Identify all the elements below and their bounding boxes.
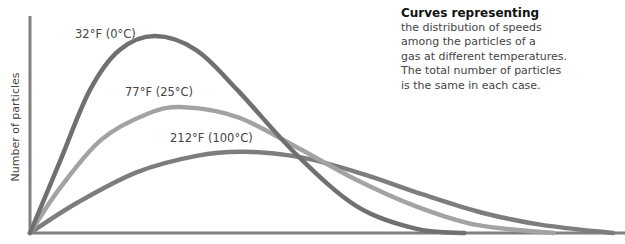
y-axis-label: Number of particles bbox=[9, 92, 22, 182]
caption-line: gas at different temperatures. bbox=[401, 50, 621, 65]
caption-line: the distribution of speeds bbox=[401, 21, 621, 36]
curve-100c bbox=[30, 152, 613, 233]
caption: Curves representing the distribution of … bbox=[401, 6, 621, 93]
label-77f: 77°F (25°C) bbox=[125, 85, 193, 99]
label-212f: 212°F (100°C) bbox=[170, 131, 253, 145]
caption-line: is the same in each case. bbox=[401, 79, 621, 94]
caption-title: Curves representing bbox=[401, 6, 621, 21]
caption-line: The total number of particles bbox=[401, 64, 621, 79]
label-32f: 32°F (0°C) bbox=[75, 27, 136, 41]
caption-line: among the particles of a bbox=[401, 35, 621, 50]
curve-25c bbox=[30, 107, 554, 233]
